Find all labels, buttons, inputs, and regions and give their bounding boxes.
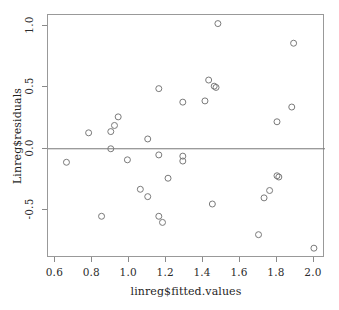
y-axis-tick-mark: [42, 25, 47, 26]
x-axis-tick-label: 1.0: [120, 266, 137, 278]
data-point: [180, 99, 186, 105]
data-point: [99, 213, 105, 219]
data-point: [115, 114, 121, 120]
y-axis-tick-label: 0.5: [23, 78, 35, 95]
data-point: [156, 86, 162, 92]
x-axis-tick-mark: [165, 257, 166, 262]
y-axis-tick-mark: [42, 148, 47, 149]
data-point: [137, 186, 143, 192]
x-axis-tick-label: 0.6: [46, 266, 63, 278]
data-point: [124, 157, 130, 163]
data-point: [63, 159, 69, 165]
data-point: [159, 219, 165, 225]
data-point: [311, 245, 317, 251]
data-point: [261, 195, 267, 201]
scatter-plot-figure: 0.60.81.01.21.41.61.82.0 1.00.50.0-0.5 l…: [0, 0, 339, 310]
x-axis-tick-label: 1.4: [193, 266, 210, 278]
x-axis-tick-mark: [239, 257, 240, 262]
x-axis-tick-label: 1.2: [157, 266, 174, 278]
x-axis-tick-mark: [91, 257, 92, 262]
x-axis-tick-mark: [54, 257, 55, 262]
x-axis-tick-mark: [276, 257, 277, 262]
data-point: [213, 84, 219, 90]
x-axis-tick-label: 2.0: [304, 266, 321, 278]
data-point: [267, 188, 273, 194]
data-point: [209, 201, 215, 207]
data-point: [289, 104, 295, 110]
data-point: [291, 40, 297, 46]
data-point: [202, 98, 208, 104]
y-axis-tick-label: 1.0: [23, 16, 35, 33]
data-point: [274, 119, 280, 125]
data-point: [108, 129, 114, 135]
data-point: [145, 194, 151, 200]
data-point: [215, 21, 221, 27]
x-axis-tick-mark: [313, 257, 314, 262]
data-point: [145, 136, 151, 142]
plot-frame: [47, 14, 324, 257]
data-point: [276, 174, 282, 180]
x-axis-tick-label: 0.8: [83, 266, 100, 278]
x-axis-title: linreg$fitted.values: [131, 285, 242, 298]
data-point: [206, 77, 212, 83]
data-point: [111, 122, 117, 128]
y-axis-tick-label: -0.5: [23, 199, 35, 220]
x-axis-tick-mark: [128, 257, 129, 262]
data-point: [156, 213, 162, 219]
data-point: [165, 175, 171, 181]
x-axis-tick-label: 1.6: [230, 266, 247, 278]
y-axis-tick-label: 0.0: [23, 139, 35, 156]
x-axis-tick-mark: [202, 257, 203, 262]
x-axis-tick-label: 1.8: [267, 266, 284, 278]
data-point: [86, 130, 92, 136]
y-axis-tick-mark: [42, 209, 47, 210]
y-axis-tick-mark: [42, 86, 47, 87]
data-points-layer: [48, 15, 325, 258]
y-axis-title: Linreg$residuals: [11, 88, 24, 184]
data-point: [256, 232, 262, 238]
plot-data-area: [48, 15, 323, 256]
data-point: [156, 152, 162, 158]
